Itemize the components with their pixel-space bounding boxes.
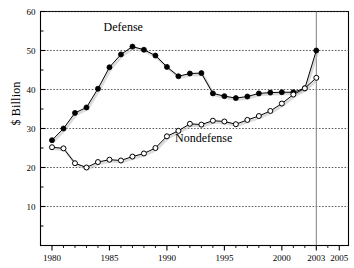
data-point: [210, 118, 215, 123]
data-point: [233, 96, 238, 101]
data-point: [279, 101, 284, 106]
data-point: [302, 86, 307, 91]
data-point: [268, 90, 273, 95]
data-series-layer: [49, 44, 318, 170]
data-point: [233, 122, 238, 127]
data-point: [72, 110, 77, 115]
x-tick-label: 1980: [43, 253, 62, 263]
chart-figure: $ Billion 102030405060 19801985199019952…: [0, 0, 354, 268]
data-point: [245, 117, 250, 122]
x-tick-label: 2000: [273, 253, 292, 263]
data-point: [199, 71, 204, 76]
y-tick-label: 20: [27, 163, 37, 173]
series-annotations: DefenseNondefense: [104, 20, 233, 145]
y-tick-label: 50: [27, 46, 37, 56]
data-point: [107, 65, 112, 70]
data-point: [222, 94, 227, 99]
data-point: [153, 53, 158, 58]
y-tick-label: 60: [27, 7, 37, 17]
y-tick-labels: 102030405060: [27, 7, 37, 212]
data-point: [176, 74, 181, 79]
y-tick-label: 10: [27, 202, 37, 212]
x-tick-label: 1990: [158, 253, 177, 263]
data-point: [84, 105, 89, 110]
line-chart: 102030405060 198019851990199520002003200…: [0, 0, 354, 268]
x-axis-ticks: [52, 246, 339, 251]
data-point: [141, 47, 146, 52]
data-point: [95, 86, 100, 91]
data-point: [95, 160, 100, 165]
data-point: [49, 138, 54, 143]
y-tick-label: 40: [27, 85, 37, 95]
data-point: [72, 161, 77, 166]
y-axis-ticks: [41, 12, 46, 227]
series-label-nondefense: Nondefense: [175, 131, 232, 145]
data-point: [187, 121, 192, 126]
data-point: [268, 108, 273, 113]
x-tick-labels: 1980198519901995200020032005: [43, 253, 349, 263]
data-point: [130, 44, 135, 49]
data-point: [187, 71, 192, 76]
data-point: [118, 52, 123, 57]
data-point: [210, 91, 215, 96]
data-point: [61, 126, 66, 131]
data-point: [256, 114, 261, 119]
data-point: [130, 154, 135, 159]
data-point: [141, 151, 146, 156]
data-point: [153, 146, 158, 151]
data-point: [107, 157, 112, 162]
x-tick-label: 1995: [215, 253, 234, 263]
data-point: [49, 145, 54, 150]
x-tick-label: 2005: [330, 253, 349, 263]
series-label-defense: Defense: [104, 20, 143, 34]
data-point: [164, 64, 169, 69]
data-point: [61, 146, 66, 151]
data-point: [84, 165, 89, 170]
data-point: [118, 158, 123, 163]
data-point: [222, 119, 227, 124]
data-point: [314, 75, 319, 80]
data-point: [291, 92, 296, 97]
data-point: [245, 94, 250, 99]
data-point: [279, 90, 284, 95]
data-point: [164, 134, 169, 139]
data-point: [256, 91, 261, 96]
data-point: [314, 48, 319, 53]
y-tick-label: 30: [27, 124, 37, 134]
data-point: [199, 122, 204, 127]
x-tick-label: 2003: [307, 253, 326, 263]
x-tick-label: 1985: [100, 253, 119, 263]
